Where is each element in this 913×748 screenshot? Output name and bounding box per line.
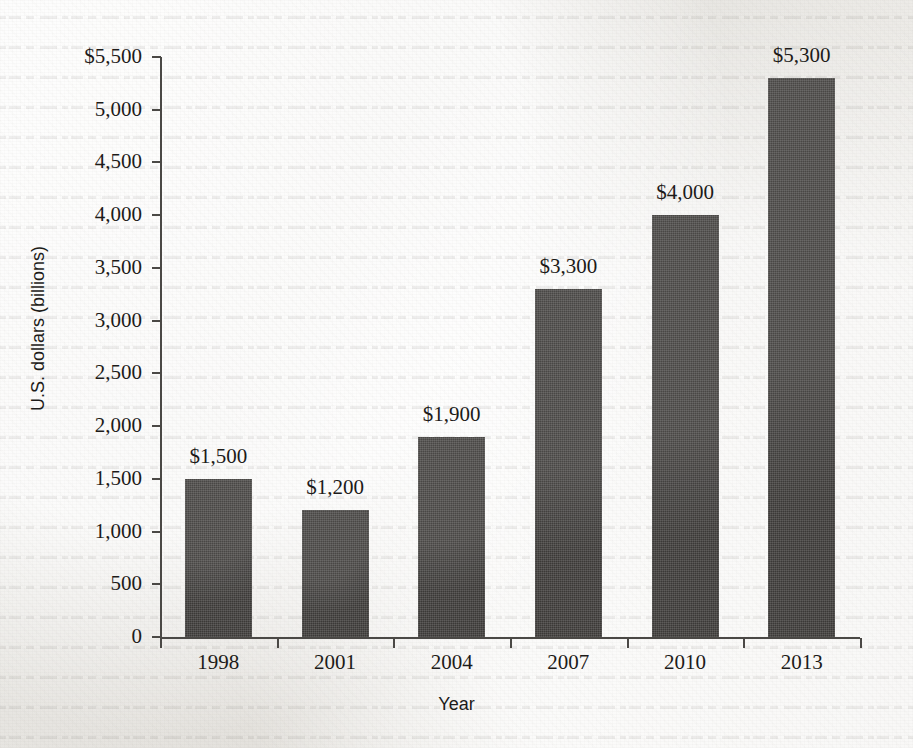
x-tick-label: 2004 <box>392 652 512 673</box>
y-tick <box>152 109 161 111</box>
x-tick-label: 2001 <box>275 652 395 673</box>
y-axis-title: U.S. dollars (billions) <box>28 199 49 459</box>
x-tick <box>510 638 512 648</box>
y-tick <box>152 214 161 216</box>
y-tick-label: $5,500 <box>58 46 142 67</box>
y-tick <box>152 425 161 427</box>
bar-value-label: $1,900 <box>382 404 522 425</box>
y-tick-label: 500 <box>58 573 142 594</box>
x-tick-label: 1998 <box>158 652 278 673</box>
y-tick-label: 1,000 <box>58 521 142 542</box>
bar-chart: 05001,0001,5002,0002,5003,0003,5004,0004… <box>0 0 913 748</box>
bar-value-label: $1,500 <box>148 446 288 467</box>
y-tick-label: 0 <box>58 626 142 647</box>
x-tick <box>743 638 745 648</box>
y-tick-label: 4,500 <box>58 151 142 172</box>
x-tick <box>393 638 395 648</box>
y-tick <box>152 531 161 533</box>
y-tick <box>152 320 161 322</box>
y-axis-line <box>160 57 162 639</box>
y-tick-label: 2,500 <box>58 362 142 383</box>
y-tick <box>152 267 161 269</box>
bar <box>652 215 719 637</box>
bar <box>535 289 602 637</box>
y-tick-label: 3,000 <box>58 310 142 331</box>
x-tick <box>627 638 629 648</box>
x-tick <box>160 638 162 648</box>
bar <box>302 510 369 637</box>
bar-value-label: $3,300 <box>498 256 638 277</box>
y-tick-label: 1,500 <box>58 468 142 489</box>
y-tick-label: 3,500 <box>58 257 142 278</box>
x-tick <box>860 638 862 648</box>
bar <box>768 78 835 637</box>
x-tick-label: 2007 <box>508 652 628 673</box>
bar-value-label: $1,200 <box>265 477 405 498</box>
y-tick <box>152 56 161 58</box>
x-tick-label: 2013 <box>742 652 862 673</box>
y-tick <box>152 372 161 374</box>
y-tick-label: 2,000 <box>58 415 142 436</box>
y-tick <box>152 583 161 585</box>
bar-value-label: $5,300 <box>732 45 872 66</box>
y-tick-label: 4,000 <box>58 204 142 225</box>
y-tick-label: 5,000 <box>58 99 142 120</box>
x-axis-title: Year <box>0 694 913 715</box>
x-tick <box>277 638 279 648</box>
y-tick <box>152 161 161 163</box>
y-tick <box>152 478 161 480</box>
bar <box>418 437 485 637</box>
x-tick-label: 2010 <box>625 652 745 673</box>
bar-value-label: $4,000 <box>615 182 755 203</box>
bar <box>185 479 252 637</box>
